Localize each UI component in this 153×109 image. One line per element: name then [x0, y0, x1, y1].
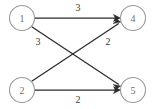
- directed-graph-figure: 3 3 2 2 1 2: [0, 0, 153, 109]
- edge-weight-1-5: 3: [36, 36, 41, 47]
- edge-line-2-4: [32, 24, 119, 82]
- node-4[interactable]: 4: [121, 6, 146, 31]
- node-label-1: 1: [20, 13, 25, 24]
- edge-weight-2-4: 2: [106, 36, 111, 47]
- edge-weight-2-5: 2: [76, 94, 81, 105]
- node-label-5: 5: [131, 85, 136, 96]
- graph-canvas: 3 3 2 2 1 2: [0, 0, 153, 109]
- node-label-4: 4: [131, 13, 136, 24]
- node-1[interactable]: 1: [10, 6, 35, 31]
- node-label-2: 2: [20, 85, 25, 96]
- node-2[interactable]: 2: [10, 78, 35, 103]
- node-5[interactable]: 5: [121, 78, 146, 103]
- edge-2-to-4: 2: [32, 18, 121, 81]
- edge-weight-1-4: 3: [76, 2, 81, 13]
- edge-2-to-5: 2: [35, 87, 121, 105]
- edge-1-to-4: 3: [35, 2, 121, 22]
